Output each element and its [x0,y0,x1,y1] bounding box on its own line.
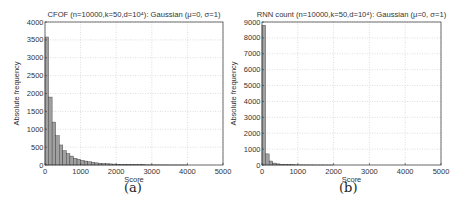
bar [81,160,85,165]
svg-text:2500: 2500 [27,71,44,80]
svg-text:2000: 2000 [325,167,342,176]
y-tick-labels: 05001000150020002500300035004000 [27,18,47,170]
y-axis-label: Absolute frequency [229,61,238,125]
svg-text:1000: 1000 [244,145,261,154]
bar [52,122,56,165]
bar [59,145,63,165]
svg-text:1000: 1000 [72,167,89,176]
svg-text:5000: 5000 [433,167,450,176]
bar [66,154,70,165]
svg-text:3000: 3000 [361,167,378,176]
svg-text:7000: 7000 [244,49,261,58]
svg-text:500: 500 [31,143,44,152]
figure: 0100020003000400050000500100015002000250… [0,0,466,214]
svg-text:3000: 3000 [143,167,160,176]
svg-text:0: 0 [43,167,47,176]
bar [269,161,273,165]
svg-text:6000: 6000 [244,65,261,74]
svg-text:1000: 1000 [289,167,306,176]
chart-a: 0100020003000400050000500100015002000250… [12,10,231,184]
caption-a: (a) [124,180,142,195]
svg-text:4000: 4000 [27,18,44,27]
svg-text:0: 0 [39,161,43,170]
svg-text:1000: 1000 [27,125,44,134]
caption-b: (b) [339,180,357,195]
y-axis-label: Absolute frequency [12,61,21,125]
svg-text:2000: 2000 [108,167,125,176]
bar [56,136,60,165]
svg-text:0: 0 [260,167,264,176]
bar [49,97,53,165]
svg-text:3500: 3500 [27,35,44,44]
bar [262,25,266,165]
svg-text:8000: 8000 [244,33,261,42]
svg-text:3000: 3000 [27,53,44,62]
bar [77,159,81,165]
svg-text:3000: 3000 [244,113,261,122]
chart-title: CFOF (n=10000,k=50,d=10⁴): Gaussian (μ=0… [48,10,221,19]
svg-text:0: 0 [256,161,260,170]
svg-text:1500: 1500 [27,107,44,116]
svg-text:4000: 4000 [244,97,261,106]
bar [70,156,74,165]
y-tick-labels: 0100020003000400050006000700080009000 [244,18,264,170]
svg-text:5000: 5000 [244,81,261,90]
svg-text:4000: 4000 [179,167,196,176]
svg-text:5000: 5000 [215,167,232,176]
chart-b: 0100020003000400050000100020003000400050… [229,10,449,184]
bar [45,37,49,165]
bar [63,151,67,165]
bar [84,161,88,165]
bar [266,154,270,165]
svg-text:2000: 2000 [244,129,261,138]
svg-text:4000: 4000 [397,167,414,176]
bar [91,162,95,165]
bar [73,158,77,165]
bar [88,162,92,165]
chart-title: RNN count (n=10000,k=50,d=10⁴): Gaussian… [257,10,447,19]
svg-text:2000: 2000 [27,89,44,98]
